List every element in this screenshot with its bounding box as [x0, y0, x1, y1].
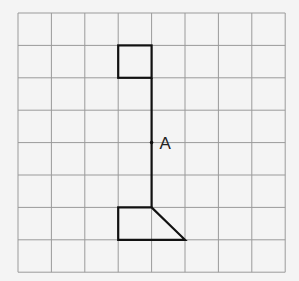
top-square	[118, 45, 151, 77]
grid-diagram	[0, 0, 299, 281]
point-a-label: A	[160, 135, 171, 152]
point-a-dot	[150, 141, 154, 145]
